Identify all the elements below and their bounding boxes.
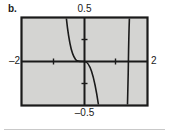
figure-panel: b. 0.5 –0.5 –2 2 — [0, 0, 169, 134]
plot-area — [0, 0, 169, 134]
footer-divider — [4, 129, 165, 130]
